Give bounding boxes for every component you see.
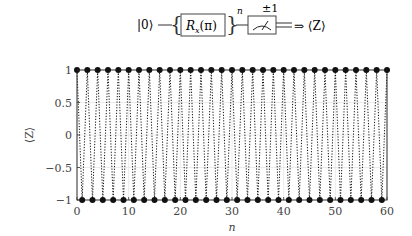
data-point [301,67,307,73]
data-point [208,67,214,73]
data-point [224,197,230,203]
data-point [198,67,204,73]
data-point [177,67,183,73]
data-point [90,197,96,203]
data-point [281,67,287,73]
y-tick-label: −0.5 [45,162,72,175]
data-point [312,67,318,73]
line-chart: 0102030405060−1−0.500.51n⟨Z⟩ [23,64,394,234]
y-tick-label: 1 [65,64,72,77]
data-point [110,197,116,203]
data-point [353,67,359,73]
x-tick-label: 20 [173,205,187,218]
data-point [126,67,132,73]
data-point [250,67,256,73]
x-tick-label: 10 [122,205,136,218]
data-point [239,67,245,73]
data-point [183,197,189,203]
data-point [105,67,111,73]
data-point [203,197,209,203]
circuit-diagram: |0⟩ { Rx(π) } n ±1 ⇒ ⟨Z⟩ [137,2,326,36]
data-point [146,67,152,73]
data-point [162,197,168,203]
data-point [332,67,338,73]
data-point [322,67,328,73]
data-point [214,197,220,203]
data-point [369,197,375,203]
x-axis-label: n [228,221,235,234]
data-point [121,197,127,203]
y-tick-label: 0 [65,129,72,142]
y-tick-label: −1 [56,194,72,207]
data-point [327,197,333,203]
gate-label: Rx(π) [185,19,217,35]
data-point [338,197,344,203]
data-point [260,67,266,73]
data-point [270,67,276,73]
data-point [234,197,240,203]
data-point [245,197,251,203]
data-point [343,67,349,73]
data-point [317,197,323,203]
data-point [79,197,85,203]
x-tick-label: 50 [328,205,342,218]
data-point [95,67,101,73]
y-tick-label: 0.5 [55,97,73,110]
data-point [374,67,380,73]
measure-outcome: ±1 [262,2,278,15]
data-point [84,67,90,73]
repeat-exponent: n [237,6,243,16]
data-point [157,67,163,73]
data-point [141,197,147,203]
measurement-box [248,16,276,34]
data-point [193,197,199,203]
data-point [152,197,158,203]
x-tick-label: 60 [380,205,394,218]
data-point [286,197,292,203]
data-point [100,197,106,203]
x-tick-label: 30 [225,205,239,218]
y-axis-label: ⟨Z⟩ [23,127,36,143]
data-point [136,67,142,73]
data-point [219,67,225,73]
figure: |0⟩ { Rx(π) } n ±1 ⇒ ⟨Z⟩ 0102030405060−1… [0,0,412,236]
data-point [188,67,194,73]
data-point [115,67,121,73]
output-expectation: ⇒ ⟨Z⟩ [294,19,326,33]
data-point [379,197,385,203]
input-state: |0⟩ [137,18,153,32]
data-point [363,67,369,73]
data-point [296,197,302,203]
data-point [276,197,282,203]
data-point [358,197,364,203]
data-point [167,67,173,73]
data-point [307,197,313,203]
data-point [384,67,390,73]
data-point [255,197,261,203]
data-point [229,67,235,73]
x-tick-label: 40 [277,205,291,218]
data-point [291,67,297,73]
data-point [172,197,178,203]
data-point [131,197,137,203]
data-point [348,197,354,203]
data-point [265,197,271,203]
x-tick-label: 0 [74,205,81,218]
